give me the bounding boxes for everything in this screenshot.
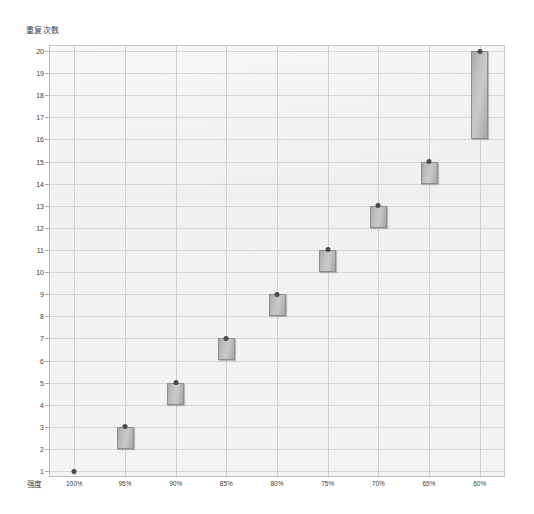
y-tick-label: 6	[8, 357, 48, 364]
plot-area	[49, 45, 505, 477]
y-tick-mark	[45, 139, 49, 140]
data-marker-dot	[477, 49, 482, 54]
data-marker[interactable]	[269, 45, 286, 477]
data-marker-box	[370, 206, 387, 228]
y-tick-mark	[45, 162, 49, 163]
y-tick-label: 3	[8, 423, 48, 430]
x-tick-label: 95%	[118, 480, 131, 487]
y-tick-mark	[45, 316, 49, 317]
x-axis-line	[49, 476, 505, 477]
y-tick-mark	[45, 272, 49, 273]
x-tick-label: 60%	[473, 480, 486, 487]
data-marker-box	[218, 338, 235, 360]
y-axis-title: 重复次数	[26, 24, 59, 35]
data-marker[interactable]	[66, 45, 83, 477]
y-tick-mark	[45, 405, 49, 406]
y-tick-mark	[45, 250, 49, 251]
axis-top-line	[49, 45, 505, 46]
data-marker-dot	[72, 469, 77, 474]
data-marker-dot	[224, 336, 229, 341]
y-tick-label: 7	[8, 335, 48, 342]
y-tick-mark	[45, 449, 49, 450]
y-tick-mark	[45, 95, 49, 96]
y-tick-mark	[45, 471, 49, 472]
data-marker[interactable]	[218, 45, 235, 477]
x-tick-label: 80%	[270, 480, 283, 487]
y-tick-mark	[45, 427, 49, 428]
y-axis-line	[49, 45, 50, 477]
data-marker[interactable]	[117, 45, 134, 477]
y-tick-label: 16	[8, 136, 48, 143]
y-tick-label: 12	[8, 224, 48, 231]
x-tick-label: 65%	[422, 480, 435, 487]
y-tick-mark	[45, 206, 49, 207]
data-marker-box	[117, 427, 134, 449]
data-marker-dot	[275, 292, 280, 297]
y-tick-label: 18	[8, 92, 48, 99]
y-tick-mark	[45, 361, 49, 362]
y-tick-label: 13	[8, 202, 48, 209]
y-tick-label: 14	[8, 180, 48, 187]
y-tick-mark	[45, 228, 49, 229]
x-tick-label: 100%	[66, 480, 83, 487]
y-axis-ticks: 1234567891011121314151617181920	[0, 45, 48, 477]
data-marker[interactable]	[319, 45, 336, 477]
y-tick-mark	[45, 184, 49, 185]
data-marker-box	[167, 383, 184, 405]
y-tick-label: 11	[8, 246, 48, 253]
axis-right-line	[504, 45, 505, 477]
data-marker[interactable]	[421, 45, 438, 477]
y-tick-label: 20	[8, 48, 48, 55]
data-marker-box	[421, 162, 438, 184]
y-tick-label: 9	[8, 291, 48, 298]
x-axis-ticks: 100%95%90%85%80%75%70%65%60%	[49, 480, 505, 494]
y-tick-label: 17	[8, 114, 48, 121]
y-tick-label: 2	[8, 445, 48, 452]
x-tick-label: 75%	[321, 480, 334, 487]
data-marker-box	[319, 250, 336, 272]
x-tick-label: 90%	[169, 480, 182, 487]
y-tick-label: 19	[8, 70, 48, 77]
data-marker[interactable]	[471, 45, 488, 477]
y-tick-label: 5	[8, 379, 48, 386]
y-tick-label: 10	[8, 269, 48, 276]
data-marker-dot	[427, 159, 432, 164]
y-tick-label: 4	[8, 401, 48, 408]
data-marker[interactable]	[167, 45, 184, 477]
y-tick-mark	[45, 51, 49, 52]
chart-root: 重复次数 1234567891011121314151617181920 100…	[0, 0, 534, 514]
x-tick-label: 70%	[372, 480, 385, 487]
data-marker-box	[269, 294, 286, 316]
data-marker[interactable]	[370, 45, 387, 477]
y-tick-mark	[45, 338, 49, 339]
y-tick-label: 8	[8, 313, 48, 320]
y-tick-mark	[45, 294, 49, 295]
y-tick-mark	[45, 117, 49, 118]
data-marker-box	[471, 51, 488, 139]
x-axis-title: 强度	[27, 478, 41, 489]
y-tick-mark	[45, 73, 49, 74]
y-tick-mark	[45, 383, 49, 384]
x-tick-label: 85%	[220, 480, 233, 487]
y-tick-label: 15	[8, 158, 48, 165]
y-tick-label: 1	[8, 468, 48, 475]
